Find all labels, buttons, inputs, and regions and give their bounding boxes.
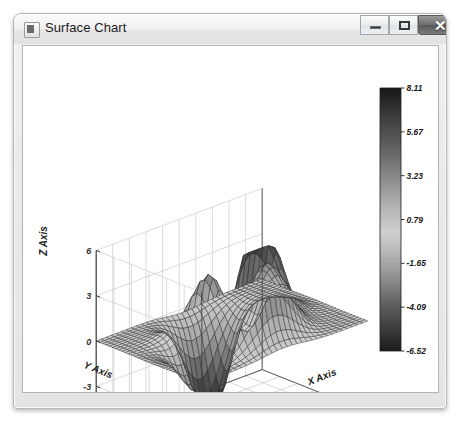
minimize-button[interactable]: [360, 15, 389, 35]
colorbar-tick-label: 0.79: [407, 215, 424, 225]
y-axis-title: Y Axis: [82, 359, 114, 380]
tick-label-z: -3: [83, 382, 91, 392]
z-axis-title: Z Axis: [38, 226, 49, 257]
surface-chart-window: Surface Chart ✕: [13, 13, 447, 409]
colorbar-tick-label: 3.23: [407, 171, 424, 181]
colorbar-tick-label: -4.09: [407, 302, 427, 312]
surface-plot-svg: -5-4-3-2-10123453210-1-2-3630-3-6 X Axis…: [23, 46, 438, 392]
colorbar-tick-label: 5.67: [407, 127, 425, 137]
chart-panel: -5-4-3-2-10123453210-1-2-3630-3-6 X Axis…: [22, 45, 439, 393]
colorbar[interactable]: 8.115.673.230.79-1.65-4.09-6.52: [380, 83, 426, 356]
surface-chart: -5-4-3-2-10123453210-1-2-3630-3-6 X Axis…: [23, 46, 438, 392]
tick-label-z: 3: [86, 291, 91, 301]
app-icon: [24, 22, 40, 38]
colorbar-tick-label: -1.65: [407, 258, 427, 268]
minimize-icon: [370, 26, 381, 29]
tick-label-z: 6: [86, 246, 92, 256]
title-bar[interactable]: Surface Chart ✕: [14, 14, 446, 44]
x-axis-title: X Axis: [305, 366, 338, 388]
colorbar-tick-label: -6.52: [407, 346, 427, 356]
tick-label-z: 0: [86, 337, 91, 347]
close-button[interactable]: ✕: [418, 15, 446, 35]
colorbar-tick-label: 8.11: [407, 83, 423, 93]
maximize-icon: [399, 21, 410, 30]
close-icon: ✕: [419, 16, 446, 34]
window-title: Surface Chart: [45, 20, 127, 35]
maximize-button[interactable]: [389, 15, 418, 35]
